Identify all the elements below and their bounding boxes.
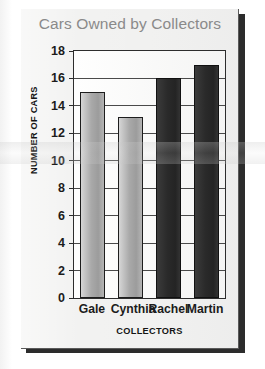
y-axis-tick-label: 12 (51, 126, 65, 140)
bar-gale (80, 92, 105, 298)
y-axis-tick-label: 10 (51, 154, 65, 168)
x-axis-title: COLLECTORS (73, 326, 226, 336)
y-axis-tick (69, 133, 74, 134)
bar-martin (194, 65, 219, 298)
chart-title: Cars Owned by Collectors (21, 15, 239, 33)
y-axis-tick-label: 6 (58, 209, 65, 223)
y-axis-tick-label: 4 (58, 236, 65, 250)
y-axis-tick-label: 0 (58, 291, 65, 305)
y-axis-tick-label: 2 (58, 264, 65, 278)
x-axis-label-cynthia: Cynthia (111, 302, 149, 316)
y-axis-tick (69, 188, 74, 189)
y-axis-tick-label: 14 (51, 99, 65, 113)
x-axis-label-martin: Martin (186, 302, 224, 316)
chart-card: Cars Owned by Collectors NUMBER OF CARS … (21, 9, 239, 349)
y-axis-tick-label: 18 (51, 44, 65, 58)
y-axis-title: NUMBER OF CARS (29, 86, 39, 174)
y-axis-tick (69, 215, 74, 216)
x-axis-label-gale: Gale (73, 302, 111, 316)
bar-rachel (156, 78, 181, 298)
y-axis-tick (69, 298, 74, 299)
bar-cynthia (118, 117, 143, 298)
y-axis-tick (69, 105, 74, 106)
y-axis-tick-label: 16 (51, 71, 65, 85)
y-axis-tick (69, 243, 74, 244)
y-axis-tick (69, 78, 74, 79)
y-axis-tick (69, 160, 74, 161)
chart-page: Cars Owned by Collectors NUMBER OF CARS … (0, 0, 265, 369)
y-axis-tick (69, 51, 74, 52)
y-axis-tick (69, 270, 74, 271)
y-axis-tick-label: 8 (58, 181, 65, 195)
plot-area: 024681012141618 (73, 50, 226, 299)
x-axis-label-rachel: Rachel (149, 302, 187, 316)
